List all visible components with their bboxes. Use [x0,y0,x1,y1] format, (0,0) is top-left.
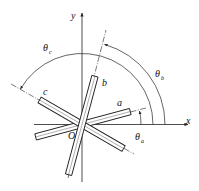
svg-text:a: a [141,138,144,144]
theta-b-label: θ b [155,68,164,81]
svg-text:θ: θ [43,42,48,53]
y-axis-label: y [70,10,76,21]
svg-text:c: c [49,49,52,55]
svg-text:θ: θ [135,131,140,142]
bar-c-label: c [43,86,48,97]
origin-label: O [68,130,75,141]
bar-b-label: b [102,77,107,88]
strain-rosette-diagram: x y O a b c θ a θ b θ c [0,0,199,191]
svg-text:θ: θ [155,68,160,79]
bar-a-label: a [117,97,122,108]
theta-c-label: θ c [43,42,52,55]
theta-a-label: θ a [135,131,144,144]
arc-theta-a [140,111,142,125]
svg-text:b: b [161,75,164,81]
x-axis-label: x [185,115,191,126]
